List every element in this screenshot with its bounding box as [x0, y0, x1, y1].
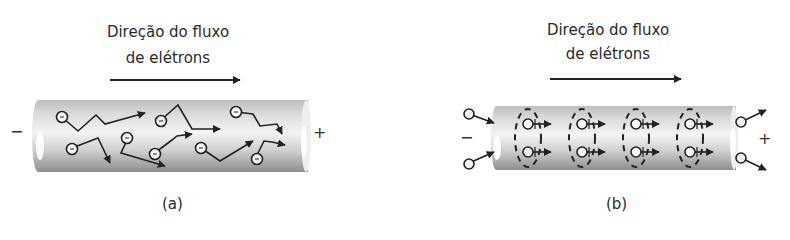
panel-a-title-line1: Direção do fluxo — [98, 22, 238, 42]
panel-b-caption: (b) — [606, 195, 627, 213]
panel-b-title-line1: Direção do fluxo — [538, 20, 678, 40]
panel-a-caption: (a) — [162, 195, 183, 213]
panel-a-negative-terminal: − — [10, 122, 23, 141]
panel-b-negative-terminal: − — [460, 128, 473, 147]
conductor-cylinder-b — [491, 106, 738, 170]
panel-b-title-line2: de elétrons — [538, 44, 678, 64]
panel-a-title: Direção do fluxo de elétrons — [98, 22, 238, 68]
panel-a-positive-terminal: + — [313, 123, 326, 142]
panel-b-graphic — [464, 79, 766, 170]
panel-b-positive-terminal: + — [758, 129, 771, 148]
panel-a-title-line2: de elétrons — [98, 48, 238, 68]
panel-b-title: Direção do fluxo de elétrons — [538, 20, 678, 64]
panel-a-graphic — [32, 80, 311, 172]
